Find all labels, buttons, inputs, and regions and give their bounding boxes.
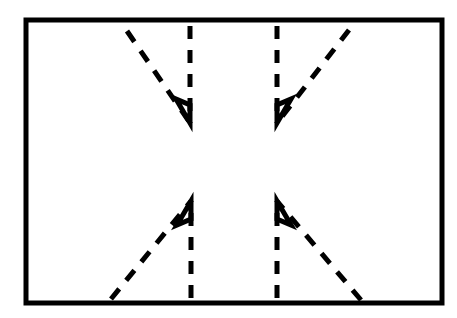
dashed-arrows-figure <box>0 0 457 318</box>
figure-container <box>0 0 457 318</box>
figure-background <box>0 0 457 318</box>
